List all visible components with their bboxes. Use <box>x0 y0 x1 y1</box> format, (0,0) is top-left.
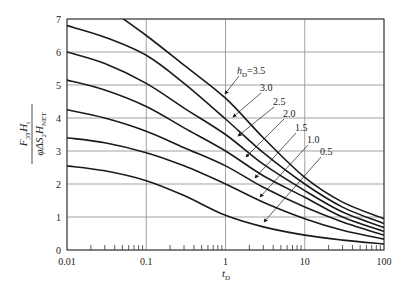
y-tick-label: 1 <box>56 212 61 223</box>
y-tick-label: 2 <box>56 179 61 190</box>
y-tick-label: 5 <box>56 80 61 91</box>
curve-label: 2.0 <box>283 108 296 119</box>
y-label-denominator: φΔS2HNET <box>33 112 48 156</box>
y-label-numerator: F3THt <box>17 122 32 147</box>
curve-label: 1.0 <box>307 134 320 145</box>
x-axis-label: tD <box>222 267 230 282</box>
label-arrow <box>233 93 261 117</box>
x-tick-label: 100 <box>377 256 392 267</box>
x-tick-label: 1 <box>223 256 228 267</box>
y-axis-label: F3THt φΔS2HNET <box>17 104 48 164</box>
curve-label: 1.5 <box>295 122 308 133</box>
curve-label: 2.5 <box>273 96 286 107</box>
x-tick-label: 0.01 <box>58 256 76 267</box>
curve-label: 0.5 <box>320 146 333 157</box>
x-tick-label: 0.1 <box>140 256 153 267</box>
y-tick-label: 3 <box>56 146 61 157</box>
x-tick-label: 10 <box>300 256 310 267</box>
y-tick-label: 6 <box>56 47 61 58</box>
curve-label: 3.0 <box>260 82 273 93</box>
label-arrow <box>255 133 296 178</box>
x-minor-ticks <box>91 245 381 250</box>
y-tick-label: 0 <box>56 245 61 256</box>
y-tick-labels: 01234567 <box>56 14 61 256</box>
y-tick-label: 4 <box>56 113 61 124</box>
label-arrow <box>238 107 274 136</box>
x-tick-labels: 0.010.1110100 <box>58 256 391 267</box>
chart: hD=3.53.02.52.01.51.00.5 01234567 0.010.… <box>0 0 402 297</box>
label-arrow <box>260 145 308 197</box>
y-tick-label: 7 <box>56 14 61 25</box>
curve-label: hD=3.5 <box>237 65 265 79</box>
